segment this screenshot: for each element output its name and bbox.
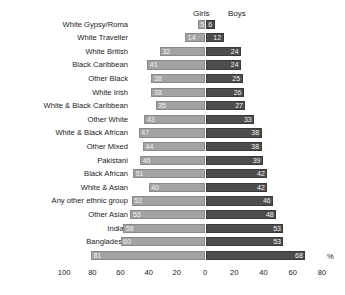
bar-value-girls: 60 — [123, 237, 131, 246]
bar-value-girls: 46 — [143, 156, 151, 165]
diverging-bar-chart: Girls Boys White Gypsy/Roma56White Trave… — [0, 0, 345, 295]
bar-value-boys: 42 — [206, 169, 265, 178]
category-label: Other Asian — [0, 209, 128, 221]
category-label: White Gypsy/Roma — [0, 19, 128, 31]
chart-row: Pakistani4639 — [0, 155, 345, 167]
category-label: White Irish — [0, 87, 128, 99]
bar-value-girls: 35 — [158, 101, 166, 110]
chart-row: Indian5853 — [0, 223, 345, 235]
axis-tick-label: 0 — [190, 268, 220, 277]
category-label: Black African — [0, 168, 128, 180]
axis-tick-label: 80 — [307, 268, 337, 277]
chart-row: Other Asian5348 — [0, 209, 345, 221]
bar-value-boys: 46 — [206, 196, 271, 205]
bar-girls — [132, 196, 205, 205]
category-label: White & Black Caribbean — [0, 100, 128, 112]
category-label: Other Mixed — [0, 141, 128, 153]
category-label: Bangladeshi — [0, 236, 128, 248]
bar-value-boys: 33 — [206, 115, 252, 124]
bar-value-boys: 39 — [206, 156, 261, 165]
bar-girls — [130, 210, 205, 219]
bar-value-boys: 38 — [206, 128, 259, 137]
bar-value-girls: 38 — [154, 88, 162, 97]
bar-value-girls: 32 — [162, 47, 170, 56]
category-label: Other Black — [0, 73, 128, 85]
axis-tick-label: 20 — [219, 268, 249, 277]
chart-row: Other White4333 — [0, 114, 345, 126]
bar-value-girls: 38 — [154, 74, 162, 83]
legend-label-boys: Boys — [228, 9, 246, 18]
chart-row: White Irish3826 — [0, 87, 345, 99]
category-label: Any other ethnic group — [0, 195, 128, 207]
bar-value-boys: 53 — [206, 224, 281, 233]
bar-value-girls: 41 — [150, 60, 158, 69]
bar-value-boys: 24 — [206, 60, 239, 69]
bar-value-girls: 5 — [200, 20, 204, 29]
bar-value-boys: 6 — [206, 20, 212, 29]
chart-row: Black African5142 — [0, 168, 345, 180]
bar-value-girls: 44 — [146, 142, 154, 151]
chart-row: White & Black African4738 — [0, 127, 345, 139]
chart-row: White Gypsy/Roma56 — [0, 19, 345, 31]
bar-value-girls: 40 — [151, 183, 159, 192]
chart-row: White Traveller1412 — [0, 32, 345, 44]
axis-tick-label: 60 — [106, 268, 136, 277]
bar-value-girls: 53 — [133, 210, 141, 219]
bar-value-girls: 14 — [188, 33, 196, 42]
chart-row: White & Black Caribbean3527 — [0, 100, 345, 112]
bar-value-boys: 24 — [206, 47, 239, 56]
category-label: Pakistani — [0, 155, 128, 167]
category-label: Black Caribbean — [0, 59, 128, 71]
chart-row: Any other ethnic group5246 — [0, 195, 345, 207]
axis-tick-label: 80 — [77, 268, 107, 277]
bar-value-boys: 42 — [206, 183, 265, 192]
chart-row: Chinese8168 — [0, 250, 345, 262]
bar-value-boys: 53 — [206, 237, 281, 246]
bar-girls — [91, 251, 205, 260]
bar-value-girls: 81 — [93, 251, 101, 260]
axis-tick-label: 20 — [162, 268, 192, 277]
bar-value-boys: 25 — [206, 74, 240, 83]
chart-row: White British3224 — [0, 46, 345, 58]
bar-value-boys: 12 — [206, 33, 221, 42]
bar-value-girls: 52 — [134, 196, 142, 205]
chart-row: Other Black3825 — [0, 73, 345, 85]
axis-tick-label: 60 — [278, 268, 308, 277]
chart-row: Bangladeshi6053 — [0, 236, 345, 248]
legend-label-girls: Girls — [193, 9, 209, 18]
chart-row: White & Asian4042 — [0, 182, 345, 194]
bar-girls — [123, 224, 205, 233]
category-label: Indian — [0, 223, 128, 235]
category-label: White British — [0, 46, 128, 58]
bar-value-boys: 38 — [206, 142, 259, 151]
bar-value-girls: 47 — [141, 128, 149, 137]
zero-axis-line — [205, 18, 206, 264]
axis-unit-label: % — [327, 252, 334, 261]
axis-tick-label: 40 — [134, 268, 164, 277]
bar-value-girls: 43 — [147, 115, 155, 124]
category-label: Other White — [0, 114, 128, 126]
category-label: White Traveller — [0, 32, 128, 44]
category-label: White & Black African — [0, 127, 128, 139]
bar-girls — [133, 169, 205, 178]
bar-value-boys: 26 — [206, 88, 242, 97]
bar-value-girls: 51 — [136, 169, 144, 178]
chart-row: Black Caribbean4124 — [0, 59, 345, 71]
axis-tick-label: 40 — [248, 268, 278, 277]
bar-value-boys: 48 — [206, 210, 274, 219]
category-label: White & Asian — [0, 182, 128, 194]
bar-value-girls: 58 — [126, 224, 134, 233]
bar-value-boys: 68 — [206, 251, 303, 260]
bar-girls — [121, 237, 205, 246]
bar-value-boys: 27 — [206, 101, 243, 110]
axis-tick-label: 100 — [49, 268, 79, 277]
chart-row: Other Mixed4438 — [0, 141, 345, 153]
